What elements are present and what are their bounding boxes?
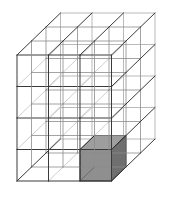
grid-edge-y (17, 73, 32, 87)
grid-edge-y (63, 90, 78, 104)
grid-edge-y (32, 90, 47, 104)
grid-edge-y (141, 76, 156, 90)
grid-edge-y (49, 167, 64, 181)
grid-edge-y (141, 13, 156, 27)
grid-edge-y (63, 122, 78, 136)
grid-edge-y (49, 136, 64, 150)
cube-figure-container (0, 0, 174, 204)
grid-edge-y (17, 104, 32, 118)
cube-grid-diagram (0, 0, 174, 204)
grid-edge-y (95, 59, 110, 73)
grid-edge-y (63, 59, 78, 73)
grid-edge-y (32, 27, 47, 41)
grid-edge-y (95, 90, 110, 104)
grid-edge-y (78, 13, 93, 27)
grid-edge-y (95, 122, 110, 136)
grid-edge-y (63, 153, 78, 167)
grid-edge-y (17, 136, 32, 150)
grid-edge-y (17, 41, 32, 55)
grid-edge-y (32, 122, 47, 136)
grid-edge-y (95, 27, 110, 41)
grid-edge-y (32, 153, 47, 167)
grid-edge-y (141, 45, 156, 59)
grid-edge-y (63, 27, 78, 41)
grid-edge-y (141, 108, 156, 122)
grid-edge-y (126, 90, 141, 104)
grid-edge-y (126, 59, 141, 73)
grid-edge-y (126, 122, 141, 136)
grid-edge-y (46, 13, 61, 27)
grid-edge-y (32, 59, 47, 73)
grid-edge-y (17, 167, 32, 181)
grid-edge-y (126, 153, 141, 167)
grid-edge-y (109, 13, 124, 27)
grid-edge-y (126, 27, 141, 41)
grid-edge-y (141, 139, 156, 153)
